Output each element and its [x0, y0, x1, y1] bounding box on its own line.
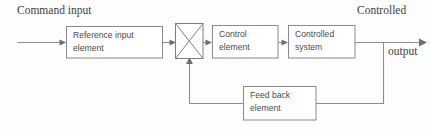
feedback-element-label-line1: Feed back [250, 90, 291, 100]
command-input-label: Command input [17, 4, 92, 17]
controlled-label: Controlled [357, 4, 406, 16]
wire-command-input [18, 39, 66, 45]
control-system-block-diagram: Reference input element Control element … [0, 0, 431, 129]
summing-junction[interactable] [176, 24, 204, 59]
control-element-label-line2: element [219, 42, 250, 52]
arrow-controlled-output [419, 39, 427, 47]
controlled-system-label-line1: Controlled [295, 29, 334, 39]
arrow-into-reference-input [60, 39, 67, 45]
controlled-system-label-line2: system [295, 42, 322, 52]
block-controlled-system[interactable]: Controlled system [289, 26, 356, 59]
wire-sum-to-control [203, 39, 212, 45]
wire-ref-to-sum [163, 39, 176, 45]
reference-input-element-label-line1: Reference input [73, 30, 134, 40]
arrow-into-controlled-system [282, 39, 289, 45]
arrow-into-control-element [206, 39, 213, 45]
control-element-label-line1: Control [219, 29, 247, 39]
output-label: output [388, 45, 418, 58]
reference-input-element-label-line2: element [73, 43, 104, 53]
diagram-canvas: Reference input element Control element … [0, 0, 431, 129]
feedback-element-label-line2: element [250, 103, 281, 113]
wire-control-to-system [278, 39, 288, 45]
block-reference-input-element[interactable]: Reference input element [67, 27, 163, 59]
block-control-element[interactable]: Control element [213, 26, 279, 59]
block-feedback-element[interactable]: Feed back element [244, 87, 317, 121]
